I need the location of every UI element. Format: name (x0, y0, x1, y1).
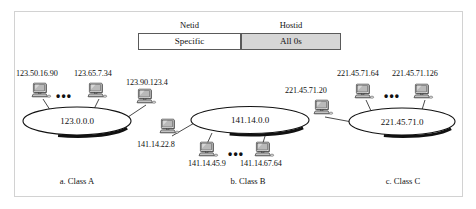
host-icon-221-45-71-20 (314, 100, 333, 114)
netid-cell: Specific (138, 33, 241, 50)
host-label-123-50-16-90: 123.50.16.90 (16, 69, 58, 78)
network-address-class-a: 123.0.0.0 (41, 116, 113, 126)
host-icon-123-90-123-4 (137, 89, 156, 103)
hostid-cell: All 0s (241, 33, 341, 50)
host-icon-221-45-71-126 (414, 84, 433, 98)
host-label-141-14-45-9: 141.14.45.9 (188, 159, 226, 168)
host-label-141-14-67-64: 141.14.67.64 (240, 159, 282, 168)
host-icon-141-14-22-8 (160, 119, 179, 133)
host-label-141-14-22-8: 141.14.22.8 (137, 140, 175, 149)
host-label-123-90-123-4: 123.90.123.4 (126, 78, 168, 87)
caption-class-b: b. Class B (203, 176, 293, 186)
network-address-class-c: 221.45.71.0 (366, 117, 438, 127)
caption-class-a: a. Class A (32, 176, 122, 186)
host-icon-123-50-16-90 (32, 83, 51, 97)
host-icon-221-45-71-64 (355, 84, 374, 98)
ellipsis-class-c: ••• (384, 92, 400, 100)
network-address-class-b: 141.14.0.0 (214, 115, 286, 125)
host-icon-141-14-67-64 (255, 142, 274, 156)
hostid-label: Hostid (241, 20, 341, 30)
caption-class-c: c. Class C (358, 176, 448, 186)
host-label-221-45-71-126: 221.45.71.126 (392, 69, 438, 78)
host-label-221-45-71-64: 221.45.71.64 (337, 69, 379, 78)
netid-label: Netid (138, 20, 241, 30)
host-icon-123-65-7-34 (88, 83, 107, 97)
host-label-221-45-71-20: 221.45.71.20 (285, 86, 327, 95)
host-label-123-65-7-34: 123.65.7.34 (74, 69, 112, 78)
ellipsis-class-b: ••• (228, 150, 244, 158)
host-icon-141-14-45-9 (199, 142, 218, 156)
ellipsis-class-a: ••• (56, 92, 72, 100)
ip-address-classes-figure: Netid Hostid Specific All 0s 123.50.16.9… (0, 0, 476, 209)
